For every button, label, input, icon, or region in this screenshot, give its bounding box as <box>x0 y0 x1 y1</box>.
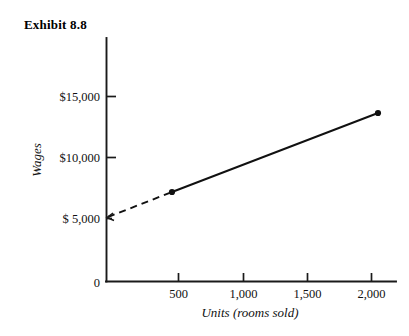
y-tick-labels: $15,000 $10,000 $ 5,000 <box>59 90 100 226</box>
axes-group <box>106 38 396 282</box>
x-axis-title: Units (rooms sold) <box>201 305 298 320</box>
exhibit-figure: Exhibit 8.8 $15,000 $10,000 $ 5,000 0 <box>0 0 409 336</box>
origin-label: 0 <box>94 276 100 290</box>
series-solid-observed <box>172 113 378 192</box>
y-tick-label-10000: $10,000 <box>59 151 100 165</box>
data-point-2 <box>375 110 381 116</box>
data-point-1 <box>169 189 175 195</box>
y-tick-label-5000: $ 5,000 <box>63 212 101 226</box>
y-tick-marks <box>107 97 117 219</box>
series-dashed-extrapolation <box>108 192 172 217</box>
x-tick-label-1500: 1,500 <box>293 287 321 301</box>
x-tick-marks <box>179 273 372 282</box>
x-tick-labels: 500 1,000 1,500 2,000 <box>169 287 385 301</box>
y-axis-title: Wages <box>29 143 44 176</box>
wages-vs-units-chart: $15,000 $10,000 $ 5,000 0 500 1,000 1,50… <box>0 0 409 336</box>
x-tick-label-1000: 1,000 <box>229 287 257 301</box>
x-tick-label-500: 500 <box>169 287 188 301</box>
y-tick-label-15000: $15,000 <box>59 90 100 104</box>
x-tick-label-2000: 2,000 <box>357 287 385 301</box>
